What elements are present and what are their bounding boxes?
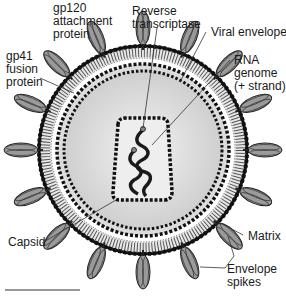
spikes-leader-2 (200, 267, 225, 268)
label-gp41: gp41 fusion protein (6, 50, 43, 89)
label-gp120: gp120 attachment protein (53, 2, 112, 41)
label-matrix: Matrix (248, 230, 281, 243)
label-rna-genome: RNA genome (+ strand) (234, 54, 286, 93)
virion-diagram (0, 0, 286, 297)
label-capsid: Capsid (8, 236, 45, 249)
label-viral-envelope: Viral envelope (211, 26, 286, 39)
label-reverse-transcriptase: Reverse transcriptase (132, 5, 201, 31)
label-envelope-spikes: Envelope spikes (227, 263, 277, 289)
